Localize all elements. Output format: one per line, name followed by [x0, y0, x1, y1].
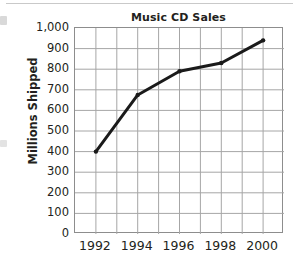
y-axis-tick-label: 600 — [12, 103, 74, 115]
data-point-marker — [219, 61, 223, 65]
chart-title: Music CD Sales — [74, 11, 283, 24]
data-point-marker — [261, 38, 265, 42]
y-axis-tick-labels: 01002003004005006007008009001,000 — [0, 0, 74, 276]
data-point-marker — [136, 93, 140, 97]
y-axis-tick-label: 300 — [12, 165, 74, 177]
y-axis-tick-label: 700 — [12, 83, 74, 95]
y-axis-tick-label: 500 — [12, 124, 74, 136]
y-axis-tick-label: 100 — [12, 206, 74, 218]
plot-svg — [75, 28, 284, 234]
data-point-marker — [94, 149, 98, 153]
data-point-marker — [177, 69, 181, 73]
gridlines — [75, 28, 284, 234]
y-axis-tick-label: 900 — [12, 42, 74, 54]
plot-area — [74, 27, 283, 233]
y-axis-tick-label: 1,000 — [12, 21, 74, 33]
y-axis-tick-label: 200 — [12, 186, 74, 198]
y-axis-tick-label: 400 — [12, 145, 74, 157]
chart-figure: Music CD Sales Millions Shipped 01002003… — [0, 0, 293, 276]
x-axis-tick-label: 2000 — [235, 238, 289, 254]
x-axis-tick-labels: 19921994199619982000 — [0, 238, 293, 262]
y-axis-tick-label: 800 — [12, 62, 74, 74]
